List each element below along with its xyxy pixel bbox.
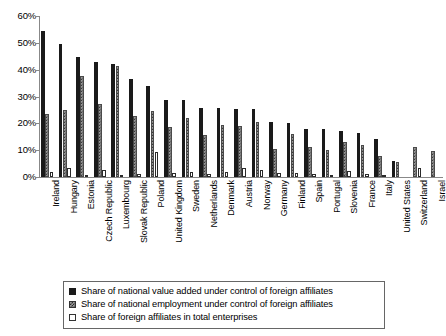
- y-axis-tick-labels: 60%50%40%30%20%10%0%: [4, 0, 36, 182]
- bar-solid-black: [304, 129, 308, 177]
- y-tick-mark: [35, 16, 39, 17]
- bar-checkered-gray: [98, 104, 102, 177]
- x-tick-label: Poland: [157, 180, 166, 207]
- bar-solid-black: [199, 108, 203, 177]
- legend-swatch-employment-icon: [69, 301, 76, 308]
- legend-label-employment: Share of national employment under contr…: [81, 299, 333, 310]
- bar-white-outline: [260, 170, 264, 177]
- legend-swatch-value-added-icon: [69, 288, 76, 295]
- bar-checkered-gray: [221, 125, 225, 177]
- bar-solid-black: [76, 57, 80, 177]
- x-tick-label: Czech Republic: [105, 180, 114, 242]
- bar-group: [355, 16, 373, 177]
- bar-checkered-gray: [343, 142, 347, 177]
- plot-area: 60%50%40%30%20%10%0% IrelandHungaryEston…: [0, 0, 446, 270]
- y-tick-mark: [35, 97, 39, 98]
- y-tick-label: 30%: [18, 92, 36, 102]
- legend-swatch-enterprises-icon: [69, 314, 76, 321]
- bar-white-outline: [382, 175, 386, 177]
- x-tick-label: France: [368, 180, 377, 207]
- bar-group: [110, 16, 128, 177]
- bar-white-outline: [330, 175, 334, 177]
- bar-white-outline: [207, 174, 211, 177]
- bar-solid-black: [357, 133, 361, 177]
- bar-group: [425, 16, 443, 177]
- bar-white-outline: [172, 173, 176, 177]
- bar-group: [215, 16, 233, 177]
- bar-group: [285, 16, 303, 177]
- bar-group: [233, 16, 251, 177]
- bar-solid-black: [94, 62, 98, 177]
- x-tick-label: Spain: [315, 180, 324, 203]
- x-tick-label: Finland: [298, 180, 307, 209]
- x-tick-label: Luxembourg: [122, 180, 131, 229]
- bar-white-outline: [67, 168, 71, 177]
- legend-label-enterprises: Share of foreign affiliates in total ent…: [81, 312, 257, 323]
- x-tick-label: United Kingdom: [175, 180, 184, 243]
- bar-solid-black: [374, 139, 378, 177]
- bar-white-outline: [155, 152, 159, 177]
- y-tick-mark: [35, 177, 39, 178]
- bar-solid-black: [182, 100, 186, 177]
- bar-solid-black: [164, 100, 168, 177]
- bar-group: [198, 16, 216, 177]
- y-tick-label: 10%: [18, 145, 36, 155]
- x-tick-label: Switzerland: [420, 180, 429, 225]
- bar-checkered-gray: [291, 134, 295, 177]
- x-tick-label: Denmark: [227, 180, 236, 216]
- bar-white-outline: [50, 172, 54, 177]
- x-tick-label: Austria: [245, 180, 254, 207]
- bar-white-outline: [102, 170, 106, 177]
- bar-solid-black: [59, 44, 63, 177]
- y-tick-label: 0%: [23, 172, 36, 182]
- bar-solid-black: [146, 86, 150, 177]
- bar-white-outline: [190, 172, 194, 177]
- bar-group: [268, 16, 286, 177]
- bar-white-outline: [312, 174, 316, 177]
- bar-group: [180, 16, 198, 177]
- bar-solid-black: [269, 122, 273, 177]
- bar-solid-black: [392, 161, 396, 177]
- bar-solid-black: [217, 108, 221, 177]
- bar-solid-black: [111, 64, 115, 178]
- bar-checkered-gray: [378, 156, 382, 177]
- bar-solid-black: [339, 131, 343, 177]
- bar-checkered-gray: [45, 114, 49, 177]
- legend-item-enterprises: Share of foreign affiliates in total ent…: [69, 311, 379, 324]
- bar-solid-black: [252, 109, 256, 177]
- legend-item-employment: Share of national employment under contr…: [69, 298, 379, 311]
- bar-white-outline: [85, 175, 89, 177]
- x-tick-label: Slovenia: [350, 180, 359, 214]
- bar-group: [58, 16, 76, 177]
- bar-group: [408, 16, 426, 177]
- x-tick-label: Israel: [438, 180, 446, 201]
- bar-white-outline: [347, 171, 351, 177]
- bar-group: [128, 16, 146, 177]
- x-tick-label: Germany: [280, 180, 289, 216]
- x-tick-label: Italy: [385, 180, 394, 196]
- y-tick-label: 60%: [18, 11, 36, 21]
- y-tick-mark: [35, 70, 39, 71]
- x-tick-label: Sweden: [192, 180, 201, 212]
- bar-solid-black: [41, 31, 45, 177]
- bar-checkered-gray: [151, 111, 155, 177]
- chart-container: 60%50%40%30%20%10%0% IrelandHungaryEston…: [0, 0, 446, 336]
- bar-checkered-gray: [133, 116, 137, 177]
- x-tick-label: Ireland: [52, 180, 61, 207]
- x-tick-label: Estonia: [87, 180, 96, 209]
- bar-checkered-gray: [203, 135, 207, 177]
- bar-checkered-gray: [116, 66, 120, 177]
- y-tick-label: 40%: [18, 65, 36, 75]
- bar-group: [320, 16, 338, 177]
- x-tick-label: Portugal: [333, 180, 342, 213]
- bar-checkered-gray: [396, 162, 400, 177]
- bar-group: [303, 16, 321, 177]
- x-tick-label: Netherlands: [210, 180, 219, 227]
- bar-checkered-gray: [361, 145, 365, 177]
- bar-checkered-gray: [238, 126, 242, 177]
- legend-label-value-added: Share of national value added under cont…: [81, 286, 333, 297]
- bars-area: [40, 16, 443, 177]
- x-tick-label: Norway: [263, 180, 272, 210]
- bar-checkered-gray: [431, 151, 435, 177]
- bar-white-outline: [137, 174, 141, 177]
